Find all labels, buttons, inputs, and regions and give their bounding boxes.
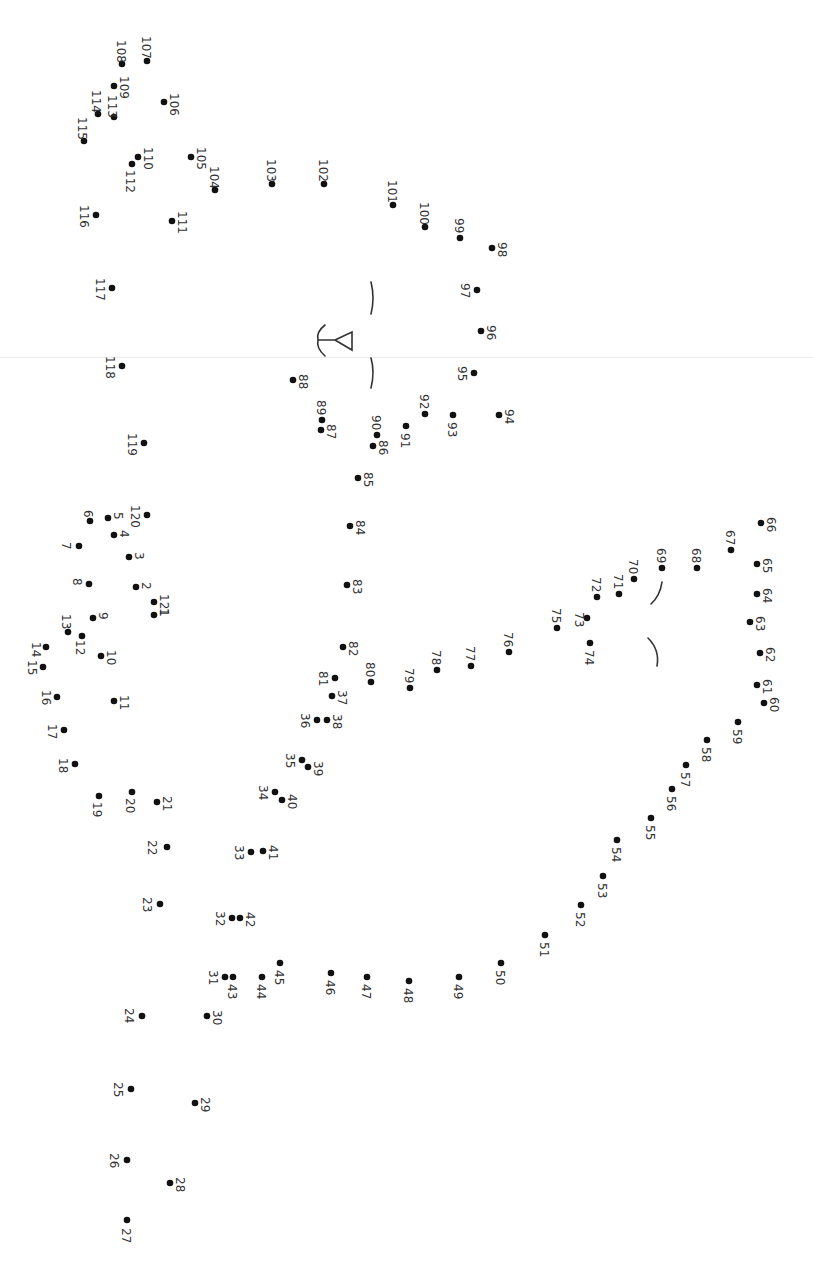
dot-76: 76 xyxy=(501,632,515,655)
dot-marker xyxy=(151,612,158,619)
dot-marker xyxy=(61,727,68,734)
dot-number-label: 81 xyxy=(316,671,330,686)
dot-marker xyxy=(450,412,457,419)
dot-5: 5 xyxy=(105,512,125,521)
dot-marker xyxy=(434,667,441,674)
dot-number-label: 9 xyxy=(96,612,110,620)
dot-64: 64 xyxy=(754,588,774,603)
dot-113: 113 xyxy=(105,95,119,120)
dot-number-label: 107 xyxy=(139,36,153,59)
dot-number-label: 61 xyxy=(760,679,774,694)
dot-number-label: 20 xyxy=(123,798,137,813)
dot-marker xyxy=(364,974,371,981)
dot-119: 119 xyxy=(125,433,147,456)
dot-40: 40 xyxy=(279,794,299,809)
dot-78: 78 xyxy=(429,650,443,673)
dot-number-label: 40 xyxy=(285,794,299,809)
dot-marker xyxy=(498,960,505,967)
dot-number-label: 36 xyxy=(298,713,312,728)
dot-marker xyxy=(735,719,742,726)
beak-curve-upper-stroke xyxy=(651,582,662,604)
dot-marker xyxy=(248,849,255,856)
dot-number-label: 22 xyxy=(145,840,159,855)
dot-marker xyxy=(119,363,126,370)
dot-marker xyxy=(154,799,161,806)
dot-87: 87 xyxy=(318,424,338,439)
dot-60: 60 xyxy=(761,697,781,712)
dot-number-label: 84 xyxy=(353,520,367,535)
dot-marker xyxy=(129,161,136,168)
dot-marker xyxy=(167,1180,174,1187)
dot-marker xyxy=(403,423,410,430)
dot-37: 37 xyxy=(329,690,349,705)
dot-number-label: 82 xyxy=(346,641,360,656)
dot-80: 80 xyxy=(363,662,377,685)
dot-66: 66 xyxy=(758,517,778,532)
dot-marker xyxy=(237,915,244,922)
dot-15: 15 xyxy=(25,660,46,675)
dot-58: 58 xyxy=(699,737,713,763)
dot-3: 3 xyxy=(126,552,146,560)
dot-9: 9 xyxy=(90,612,110,621)
dot-105: 105 xyxy=(188,147,208,170)
dot-27: 27 xyxy=(119,1217,133,1244)
dot-marker xyxy=(683,762,690,769)
dot-marker xyxy=(370,443,377,450)
dot-number-label: 2 xyxy=(139,582,153,590)
dot-12: 12 xyxy=(73,633,87,656)
dot-29: 29 xyxy=(192,1097,212,1112)
dot-number-label: 78 xyxy=(429,650,443,665)
dot-number-label: 52 xyxy=(573,912,587,927)
dot-number-label: 100 xyxy=(417,202,431,225)
dot-marker xyxy=(96,793,103,800)
dot-marker xyxy=(111,532,118,539)
dot-number-label: 60 xyxy=(767,697,781,712)
dot-57: 57 xyxy=(678,762,692,788)
dot-marker xyxy=(318,427,325,434)
dot-marker xyxy=(340,644,347,651)
dot-marker xyxy=(422,411,429,418)
dot-marker xyxy=(659,565,666,572)
dot-number-label: 6 xyxy=(81,510,95,518)
dot-31: 31 xyxy=(206,970,228,985)
dot-marker xyxy=(229,915,236,922)
dot-marker xyxy=(374,432,381,439)
dot-number-label: 98 xyxy=(495,242,509,257)
dot-number-label: 12 xyxy=(73,640,87,655)
dot-86: 86 xyxy=(370,440,390,455)
dot-number-label: 115 xyxy=(75,117,89,140)
dot-number-label: 88 xyxy=(296,374,310,389)
dot-61: 61 xyxy=(754,679,774,694)
dot-marker xyxy=(344,582,351,589)
dot-number-label: 105 xyxy=(194,147,208,170)
dot-number-label: 48 xyxy=(401,988,415,1003)
dot-number-label: 11 xyxy=(117,695,131,710)
dot-number-label: 62 xyxy=(763,647,777,662)
dot-28: 28 xyxy=(167,1177,187,1192)
dot-marker xyxy=(188,154,195,161)
dot-number-label: 37 xyxy=(335,690,349,705)
dot-marker xyxy=(347,523,354,530)
dot-marker xyxy=(554,625,561,632)
dot-marker xyxy=(169,218,176,225)
dot-52: 52 xyxy=(573,902,587,928)
dot-98: 98 xyxy=(489,242,509,257)
dot-marker xyxy=(126,554,133,561)
dot-number-label: 110 xyxy=(141,147,155,170)
dot-marker xyxy=(272,789,279,796)
dot-4: 4 xyxy=(111,530,131,538)
dot-number-label: 70 xyxy=(626,559,640,574)
dot-marker xyxy=(456,974,463,981)
dot-number-label: 75 xyxy=(549,608,563,623)
dot-number-label: 38 xyxy=(330,714,344,729)
dot-number-label: 39 xyxy=(311,761,325,776)
dot-number-label: 45 xyxy=(272,970,286,985)
dot-number-label: 54 xyxy=(609,847,623,862)
dot-marker xyxy=(614,837,621,844)
dot-83: 83 xyxy=(344,579,364,594)
dot-53: 53 xyxy=(595,873,609,899)
dot-number-label: 116 xyxy=(77,205,91,228)
dot-33: 33 xyxy=(232,845,254,860)
dot-number-label: 24 xyxy=(122,1008,136,1023)
dot-34: 34 xyxy=(256,785,278,800)
